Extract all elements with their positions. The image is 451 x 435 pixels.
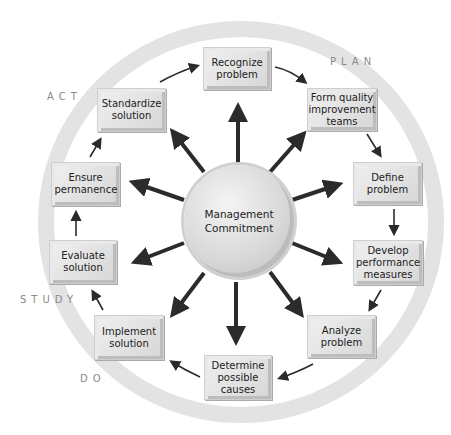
step-standardize-solution: Standardize solution bbox=[97, 88, 166, 132]
step-define-problem: Define problem bbox=[353, 162, 422, 205]
phase-label-study: STUDY bbox=[20, 294, 78, 305]
radial-arrow-define bbox=[292, 186, 334, 200]
step-label: Determine possible causes bbox=[210, 360, 266, 396]
step-ensure-permanence: Ensure permanence bbox=[51, 162, 120, 206]
radial-arrow-ensure bbox=[138, 184, 184, 200]
step-develop-performance-measures: Develop performance measures bbox=[353, 240, 423, 285]
step-label: Analyze problem bbox=[317, 325, 367, 349]
step-determine-possible-causes: Determine possible causes bbox=[204, 355, 272, 400]
cycle-arrow-5 bbox=[280, 364, 313, 378]
cycle-arrow-9 bbox=[90, 140, 100, 157]
step-label: Define problem bbox=[363, 172, 413, 196]
step-form-quality-teams: Form quality improvement teams bbox=[307, 88, 377, 131]
phase-label-do: DO bbox=[80, 373, 106, 384]
radial-arrow-form-teams bbox=[270, 138, 300, 172]
cycle-arrow-1 bbox=[275, 67, 305, 82]
cycle-arrow-6 bbox=[172, 362, 200, 377]
center-label: Management Commitment bbox=[199, 207, 279, 235]
cycle-arrow-10 bbox=[160, 66, 197, 82]
cycle-arrow-4 bbox=[370, 290, 381, 309]
radial-arrow-standardize bbox=[176, 136, 204, 172]
radial-arrow-analyze bbox=[270, 272, 298, 310]
step-analyze-problem: Analyze problem bbox=[307, 315, 376, 358]
radial-arrow-develop bbox=[292, 243, 334, 260]
step-label: Form quality improvement teams bbox=[308, 92, 375, 128]
center-management-commitment: Management Commitment bbox=[184, 165, 294, 277]
step-label: Ensure permanence bbox=[55, 172, 117, 196]
step-implement-solution: Implement solution bbox=[94, 315, 164, 360]
phase-label-plan: PLAN bbox=[330, 56, 376, 67]
step-label: Implement solution bbox=[101, 326, 157, 350]
step-label: Recognize problem bbox=[208, 57, 266, 81]
cycle-arrow-7 bbox=[93, 292, 103, 310]
step-label: Evaluate solution bbox=[58, 250, 108, 274]
step-recognize-problem: Recognize problem bbox=[203, 47, 271, 90]
step-label: Standardize solution bbox=[101, 98, 163, 122]
phase-label-act: ACT bbox=[47, 91, 82, 102]
step-label: Develop performance measures bbox=[356, 245, 420, 281]
pdsa-cycle-diagram: Management Commitment Recognize problem … bbox=[0, 0, 451, 435]
radial-arrow-evaluate bbox=[140, 243, 184, 260]
step-evaluate-solution: Evaluate solution bbox=[49, 240, 117, 284]
radial-arrow-implement bbox=[176, 273, 204, 310]
cycle-arrow-2 bbox=[367, 134, 380, 155]
